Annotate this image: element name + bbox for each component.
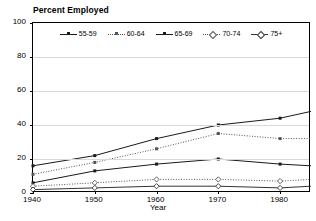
plot-area bbox=[32, 22, 310, 192]
y-tick-mark bbox=[30, 125, 33, 126]
data-point bbox=[278, 179, 283, 184]
y-tick-label: 60 bbox=[0, 86, 26, 94]
y-tick-mark bbox=[30, 23, 33, 24]
data-point bbox=[32, 164, 35, 167]
data-point bbox=[279, 137, 282, 140]
data-point bbox=[32, 173, 35, 176]
y-tick-label: 20 bbox=[0, 154, 26, 162]
data-point bbox=[216, 184, 221, 189]
series-line bbox=[33, 186, 311, 189]
y-tick-mark bbox=[30, 91, 33, 92]
data-point bbox=[93, 169, 96, 172]
series-line bbox=[33, 159, 311, 183]
chart-title: Percent Employed bbox=[33, 5, 109, 15]
gridline bbox=[33, 125, 309, 126]
series-70-74 bbox=[30, 177, 311, 189]
chart-container: Percent Employed 020406080100 1940195019… bbox=[0, 0, 316, 221]
x-tick-mark bbox=[95, 191, 96, 194]
data-point bbox=[155, 137, 158, 140]
data-point bbox=[155, 147, 158, 150]
y-tick-mark bbox=[30, 159, 33, 160]
y-tick-mark bbox=[30, 57, 33, 58]
data-point bbox=[217, 132, 220, 135]
data-point bbox=[154, 177, 159, 182]
x-tick-mark bbox=[157, 191, 158, 194]
y-tick-label: 100 bbox=[0, 18, 26, 26]
series-line bbox=[33, 179, 311, 186]
gridline bbox=[33, 159, 309, 160]
series-layer bbox=[33, 23, 311, 193]
series-line bbox=[33, 134, 311, 175]
series-line bbox=[33, 111, 311, 165]
y-tick-label: 0 bbox=[0, 188, 26, 196]
gridline bbox=[33, 91, 309, 92]
data-point bbox=[92, 180, 97, 185]
data-point bbox=[278, 185, 283, 190]
data-point bbox=[155, 163, 158, 166]
x-tick-mark bbox=[280, 191, 281, 194]
data-point bbox=[216, 177, 221, 182]
data-point bbox=[279, 163, 282, 166]
data-point bbox=[93, 161, 96, 164]
x-tick-mark bbox=[218, 191, 219, 194]
series-60-64 bbox=[32, 132, 312, 176]
data-point bbox=[154, 184, 159, 189]
data-point bbox=[93, 154, 96, 157]
x-tick-mark bbox=[33, 191, 34, 194]
y-tick-label: 80 bbox=[0, 52, 26, 60]
x-axis-title: Year bbox=[0, 203, 316, 212]
series-75+ bbox=[30, 184, 311, 193]
data-point bbox=[92, 185, 97, 190]
y-tick-label: 40 bbox=[0, 120, 26, 128]
series-65-69 bbox=[32, 158, 312, 185]
gridline bbox=[33, 57, 309, 58]
data-point bbox=[279, 117, 282, 120]
